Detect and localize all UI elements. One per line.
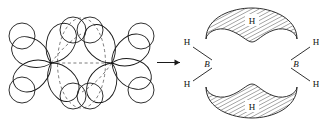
diborane-orbital-figure: B B H H H H H H	[0, 0, 319, 126]
hydrogen-label-upper-left: H	[184, 37, 191, 47]
boron-nucleus-left	[50, 62, 52, 64]
boron-label-right: B	[293, 59, 299, 69]
boron-label-left: B	[204, 59, 210, 69]
hydrogen-label-top-bridge: H	[249, 16, 256, 26]
bridging-hydrogen-label-top-group: H	[245, 14, 259, 26]
hydrogen-label-lower-right: H	[313, 79, 319, 89]
boron-nucleus-right	[111, 62, 113, 64]
hydrogen-label-upper-right: H	[313, 37, 319, 47]
hydrogen-label-lower-left: H	[184, 79, 191, 89]
figure-canvas: B B H H H H H H	[0, 0, 319, 126]
bridging-hydrogen-label-bottom-group: H	[245, 100, 259, 112]
hydrogen-label-bottom-bridge: H	[249, 102, 256, 112]
